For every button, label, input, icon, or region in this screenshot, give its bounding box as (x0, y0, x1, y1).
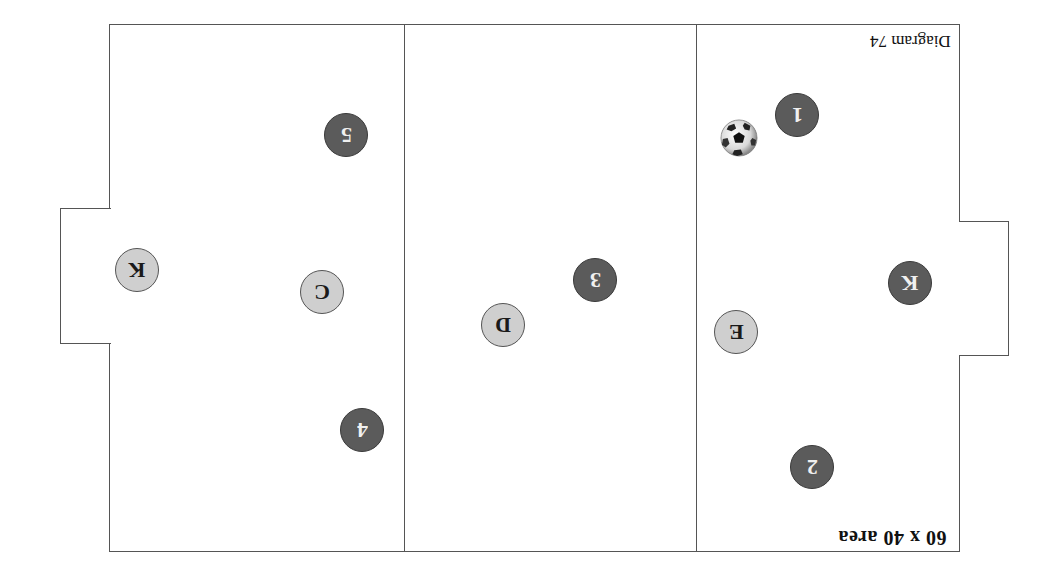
zone-divider-right (696, 24, 697, 552)
player-label: 3 (590, 267, 601, 293)
player-marker-dark-3: 3 (573, 258, 617, 302)
soccer-ball-icon (720, 119, 758, 157)
player-marker-light-e: E (714, 310, 758, 354)
player-label: 1 (792, 102, 803, 128)
player-label: K (128, 257, 145, 283)
player-marker-light-c: C (300, 270, 344, 314)
player-marker-dark-4: 4 (340, 408, 384, 452)
player-marker-dark-k: K (888, 261, 932, 305)
zone-divider-left (404, 24, 405, 552)
diagram-number: Diagram 74 (870, 31, 951, 51)
player-marker-light-k: K (115, 248, 159, 292)
player-label: 2 (807, 454, 818, 480)
player-label: C (314, 279, 330, 305)
goal-right (959, 221, 1009, 356)
player-label: D (495, 312, 511, 338)
player-marker-dark-5: 5 (324, 113, 368, 157)
goal-left (60, 208, 111, 344)
player-label: K (901, 270, 918, 296)
player-label: 5 (341, 122, 352, 148)
player-label: E (729, 319, 744, 345)
player-marker-light-d: D (481, 303, 525, 347)
diagram-title: 60 x 40 area (838, 526, 946, 549)
player-marker-dark-1: 1 (775, 93, 819, 137)
player-marker-dark-2: 2 (790, 445, 834, 489)
player-label: 4 (357, 417, 368, 443)
